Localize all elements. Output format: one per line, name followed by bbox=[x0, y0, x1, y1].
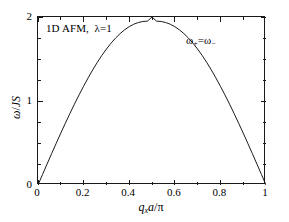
omega-minus-subscript: − bbox=[211, 39, 216, 48]
x-axis-label: qxa/π bbox=[139, 200, 164, 215]
x-tick-label-3: 0.6 bbox=[167, 186, 181, 198]
x-tick-label-4: 0.8 bbox=[213, 186, 227, 198]
plot-area: 1D AFM, λ=1 ω+=ω− bbox=[37, 16, 265, 184]
y-tick-label-2: 2 bbox=[16, 10, 32, 22]
y-tick-label-0: 0 bbox=[16, 178, 32, 190]
data-curve-omega bbox=[38, 17, 266, 185]
y-axis-omega-symbol: ω bbox=[9, 111, 23, 119]
y-tick-label-1: 1 bbox=[16, 94, 32, 106]
x-tick-label-2: 0.4 bbox=[121, 186, 135, 198]
curve-annotation-omega-equality: ω+=ω− bbox=[186, 35, 216, 48]
figure-canvas: ω/JS 0 1 2 0 0.2 0.4 0.6 0.8 1 qxa/π 1D … bbox=[0, 0, 289, 222]
x-tick-label-1: 0.2 bbox=[76, 186, 90, 198]
x-tick-label-0: 0 bbox=[34, 186, 40, 198]
chart-title-lambda: λ=1 bbox=[95, 22, 112, 34]
plot-svg bbox=[38, 17, 266, 185]
y-axis-slash: / bbox=[9, 107, 23, 110]
x-tick-label-5: 1 bbox=[262, 186, 268, 198]
x-axis-pi-symbol: π bbox=[157, 200, 163, 214]
y-axis-label: ω/JS bbox=[9, 78, 24, 138]
axis-ticks bbox=[38, 17, 266, 185]
chart-title-text: 1D AFM, bbox=[46, 22, 89, 34]
chart-title: 1D AFM, λ=1 bbox=[46, 23, 112, 34]
